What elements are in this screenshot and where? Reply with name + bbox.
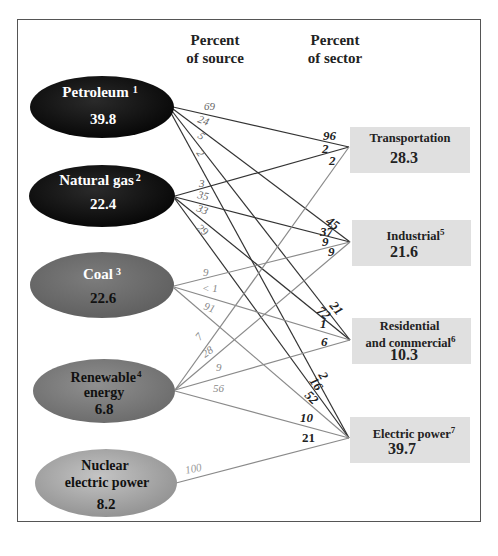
sector-industrial-value: 21.6 [390, 243, 418, 261]
pct-sector-electric-renewable: 10 [300, 410, 314, 425]
pct-source-natgas-electric: 29 [195, 221, 212, 238]
flow-renewable-electric [175, 391, 349, 438]
flow-nuclear-electric [176, 438, 349, 483]
flow-petroleum-electric [171, 113, 349, 438]
sector-transportation-value: 28.3 [390, 149, 418, 167]
sector-transportation-label: Transportation [350, 131, 470, 145]
pct-source-natgas-transportation: 3 [198, 177, 205, 189]
source-renewable-label-line2: energy [84, 385, 124, 400]
sector-electric-power-label: Electric power7 [358, 423, 470, 441]
pct-source-coal-electric: 91 [202, 300, 216, 315]
sector-electric-power-box: Electric power7 39.7 [350, 417, 470, 463]
source-petroleum-value: 39.8 [90, 111, 116, 127]
sector-residential-commercial-box: Residential and commercial6 10.3 [352, 318, 471, 364]
pct-source-renewable-electric: 56 [213, 382, 225, 394]
source-natural-gas-value: 22.4 [90, 196, 117, 212]
pct-sector-residential-coal: 1 [320, 316, 327, 331]
pct-source-renewable-transportation: 7 [192, 330, 205, 342]
source-nuclear-label-line1: Nuclear [81, 458, 128, 473]
sector-electric-power-value: 39.7 [388, 440, 416, 458]
pct-sector-transportation-natgas: 2 [321, 141, 329, 156]
pct-source-coal-industrial: 9 [203, 266, 209, 278]
pct-sector-electric-nuclear: 21 [302, 430, 315, 445]
source-renewable-label-line1: Renewable4 [71, 369, 142, 385]
source-renewable-value: 6.8 [95, 401, 114, 417]
sector-industrial-label: Industrial5 [360, 225, 471, 243]
pct-source-petroleum-residential: 5 [196, 129, 208, 142]
source-coal-value: 22.6 [90, 290, 117, 306]
source-petroleum-label: Petroleum1 [62, 84, 137, 100]
source-nuclear-label-line2: electric power [65, 475, 149, 490]
pct-source-natgas-residential: 33 [194, 201, 210, 217]
sector-transportation-box: Transportation 28.3 [350, 127, 470, 173]
pct-source-nuclear-electric: 100 [184, 461, 203, 476]
pct-source-natgas-industrial: 35 [196, 188, 211, 202]
pct-sector-residential-renewable: 6 [321, 334, 328, 349]
pct-sector-industrial-renewable: 9 [328, 244, 335, 259]
sector-residential-value: 10.3 [390, 347, 418, 363]
sector-industrial-box: Industrial5 21.6 [352, 220, 471, 266]
pct-source-coal-residential: < 1 [202, 282, 218, 294]
pct-sector-transportation-renewable: 2 [328, 153, 336, 168]
pct-source-petroleum-industrial: 24 [196, 113, 211, 128]
flow-lines [171, 107, 350, 483]
pct-source-petroleum-electric: 2 [194, 147, 207, 159]
source-coal-ellipse [30, 252, 174, 318]
pct-source-renewable-residential: 9 [216, 361, 222, 373]
pct-source-petroleum-transportation: 69 [204, 100, 216, 112]
source-natural-gas-label: Natural gas2 [59, 172, 141, 188]
pct-sector-electric-coal: 52 [302, 388, 322, 408]
sector-residential-label-line1: Residential [348, 319, 471, 333]
energy-flow-diagram: Petroleum1 39.8 Natural gas2 22.4 Coal3 … [0, 0, 498, 556]
source-nuclear-value: 8.2 [97, 496, 116, 512]
